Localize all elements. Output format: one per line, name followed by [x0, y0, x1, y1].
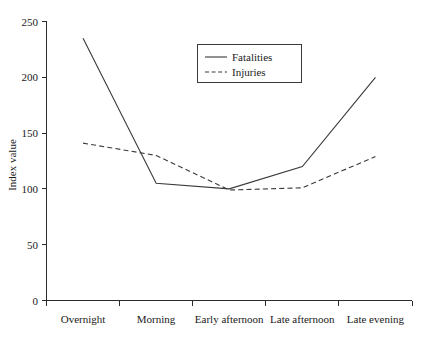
y-tick-label-200: 200 [22, 71, 39, 83]
series-line-injuries [83, 143, 375, 190]
x-tick-label-overnight: Overnight [61, 313, 106, 325]
x-axis-ticks [47, 301, 413, 307]
x-tick-label-morning: Morning [137, 313, 176, 325]
x-tick-label-late-evening: Late evening [347, 313, 405, 325]
x-tick-label-late-afternoon: Late afternoon [270, 313, 335, 325]
legend-label-fatalities: Fatalities [232, 51, 272, 63]
x-tick-label-early-afternoon: Early afternoon [195, 313, 264, 325]
y-tick-label-250: 250 [22, 16, 39, 28]
y-tick-label-100: 100 [22, 183, 39, 195]
line-chart: 250 200 150 100 50 0 Index value Overnig… [0, 0, 423, 338]
y-tick-label-150: 150 [22, 127, 39, 139]
y-axis-title: Index value [6, 139, 18, 191]
chart-figure: 250 200 150 100 50 0 Index value Overnig… [0, 0, 423, 338]
legend-label-injuries: Injuries [232, 66, 266, 78]
chart-legend: Fatalities Injuries [198, 45, 302, 83]
y-tick-label-50: 50 [27, 239, 39, 251]
y-axis-ticks [42, 22, 47, 301]
y-tick-label-0: 0 [33, 295, 39, 307]
